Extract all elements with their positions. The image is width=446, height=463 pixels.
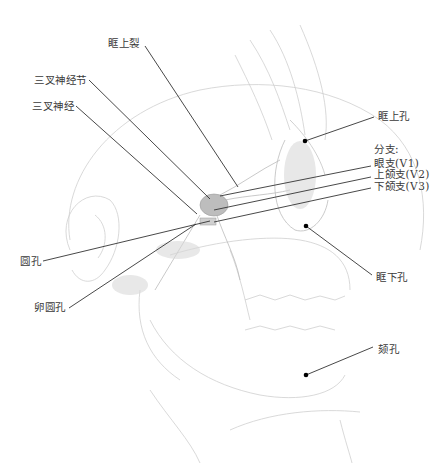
- trigeminal-diagram: [0, 0, 446, 463]
- label-foramen-rotundum: 圆孔: [20, 255, 41, 267]
- label-superior-orbital-fissure: 眶上裂: [108, 37, 140, 49]
- label-supraorbital-foramen: 眶上孔: [378, 110, 410, 122]
- label-trigeminal-nerve: 三叉神经: [32, 100, 74, 112]
- label-maxillary-branch: 上颌支(V2): [374, 168, 430, 180]
- label-foramen-ovale: 卵圆孔: [34, 301, 66, 313]
- label-branches-heading: 分支:: [374, 143, 399, 155]
- trigeminal-ganglion-shape: [200, 194, 228, 216]
- infraorbital-dot: [304, 224, 309, 229]
- supraorbital-dot: [303, 139, 308, 144]
- label-mental-foramen: 颏孔: [378, 343, 399, 355]
- mental-dot: [304, 373, 309, 378]
- label-trigeminal-ganglion: 三叉神经节: [34, 74, 87, 86]
- label-mandibular-branch: 下颌支(V3): [374, 180, 430, 192]
- label-infraorbital-foramen: 眶下孔: [376, 271, 408, 283]
- skull-sketch: [66, 25, 424, 463]
